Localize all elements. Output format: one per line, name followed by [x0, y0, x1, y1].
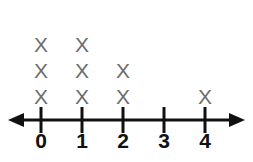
tick-label-1: 1 — [67, 129, 97, 153]
x-mark: X — [26, 32, 56, 58]
x-mark: X — [67, 84, 97, 110]
left-arrow-icon — [8, 113, 24, 127]
dot-plot-figure: XXXXXXXXX 01234 — [0, 0, 253, 162]
tick-label-4: 4 — [190, 129, 220, 153]
x-mark: X — [26, 84, 56, 110]
mark-column-1: XXX — [67, 32, 97, 110]
mark-column-2: XX — [108, 58, 138, 110]
x-mark: X — [108, 58, 138, 84]
x-mark: X — [67, 32, 97, 58]
x-mark: X — [67, 58, 97, 84]
tick-label-3: 3 — [149, 129, 179, 153]
tick-labels-layer: 01234 — [0, 129, 253, 159]
marks-layer: XXXXXXXXX — [0, 0, 253, 110]
x-mark: X — [108, 84, 138, 110]
tick-label-2: 2 — [108, 129, 138, 153]
right-arrow-icon — [229, 113, 245, 127]
mark-column-4: X — [190, 84, 220, 110]
x-mark: X — [26, 58, 56, 84]
x-mark: X — [190, 84, 220, 110]
mark-column-0: XXX — [26, 32, 56, 110]
tick-label-0: 0 — [26, 129, 56, 153]
